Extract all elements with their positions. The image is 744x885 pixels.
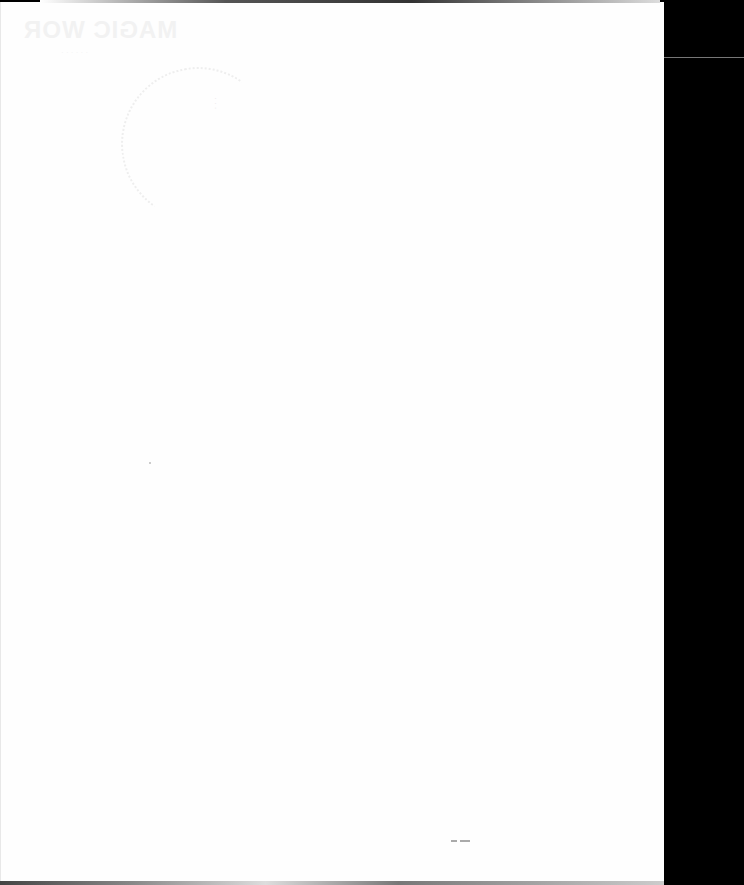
scanned-page: MAGIC WOR · · · · · · · · · xyxy=(0,2,664,883)
faint-stamp-circle xyxy=(109,55,287,233)
bleed-through-subtext: · · · · · · xyxy=(61,48,88,57)
top-scan-edge xyxy=(40,0,660,3)
scanner-line xyxy=(664,57,744,58)
speck xyxy=(149,462,151,464)
bleed-through-heading: MAGIC WOR xyxy=(23,16,177,44)
bottom-scan-edge xyxy=(0,881,664,885)
faint-stamp-text: · · · xyxy=(211,97,220,109)
bottom-mark xyxy=(451,828,473,831)
